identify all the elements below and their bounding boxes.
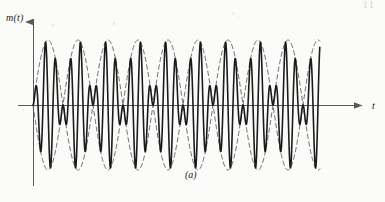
figure-caption: (a) xyxy=(185,169,197,180)
scan-speck xyxy=(113,22,115,25)
y-axis-label: m(t) xyxy=(6,12,23,23)
scan-speck xyxy=(52,24,54,27)
figure-container: 11 m(t) t (a) xyxy=(0,0,385,202)
x-axis-label: t xyxy=(372,100,375,111)
axes-group xyxy=(18,22,362,186)
scan-speck xyxy=(232,12,235,15)
scan-speck xyxy=(238,16,240,18)
